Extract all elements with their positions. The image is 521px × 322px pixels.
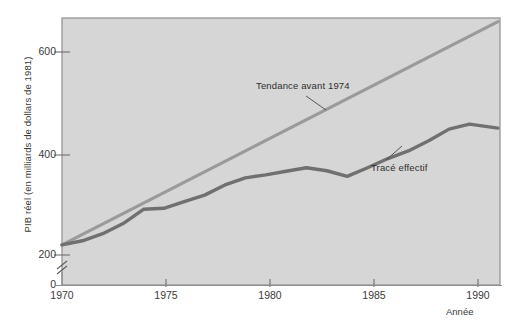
- x-tick-labels: 1970 1975 1980 1985 1990: [0, 0, 521, 322]
- annotation-tendance-avant-1974: Tendance avant 1974: [256, 80, 350, 91]
- x-tick-label-1980: 1980: [245, 290, 295, 301]
- x-tick-label-1990: 1990: [453, 290, 503, 301]
- annotation-trace-effectif: Tracé effectif: [371, 162, 427, 173]
- x-tick-label-1970: 1970: [37, 290, 87, 301]
- x-tick-label-1985: 1985: [349, 290, 399, 301]
- x-tick-label-1975: 1975: [141, 290, 191, 301]
- x-axis-label: Année: [446, 306, 473, 317]
- chart-figure: PIB réel (en milliards de dollars de 198…: [0, 0, 521, 322]
